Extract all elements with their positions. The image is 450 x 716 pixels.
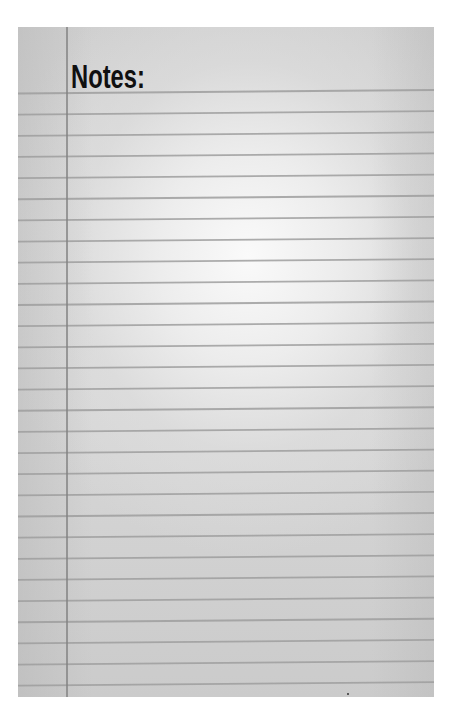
ruled-line [18, 576, 434, 580]
ruled-line [18, 555, 434, 559]
ruled-line [18, 217, 434, 221]
ruled-line [18, 365, 434, 369]
ruled-line [18, 619, 434, 623]
ruled-lines [18, 27, 434, 697]
margin-line [66, 27, 68, 697]
ruled-line [18, 132, 434, 136]
ruled-line [18, 153, 434, 157]
ruled-line [18, 640, 434, 644]
ruled-line [18, 302, 434, 306]
ruled-line [18, 196, 434, 200]
ruled-line [18, 175, 434, 179]
ruled-line [18, 682, 434, 686]
notepad-paper: Notes: [18, 27, 434, 697]
ruled-line [18, 323, 434, 327]
ruled-line [18, 492, 434, 496]
ruled-line [18, 407, 434, 411]
ruled-line [18, 259, 434, 263]
ruled-line [18, 450, 434, 454]
ruled-line [18, 471, 434, 475]
ruled-line [18, 534, 434, 538]
ruled-line [18, 428, 434, 432]
ruled-line [18, 386, 434, 390]
notes-heading: Notes: [71, 60, 145, 93]
paper-speck [347, 693, 349, 695]
ruled-line [18, 598, 434, 602]
ruled-line [18, 513, 434, 517]
ruled-line [18, 238, 434, 242]
ruled-line [18, 661, 434, 665]
ruled-line [18, 280, 434, 284]
ruled-line [18, 344, 434, 348]
ruled-line [18, 111, 434, 115]
